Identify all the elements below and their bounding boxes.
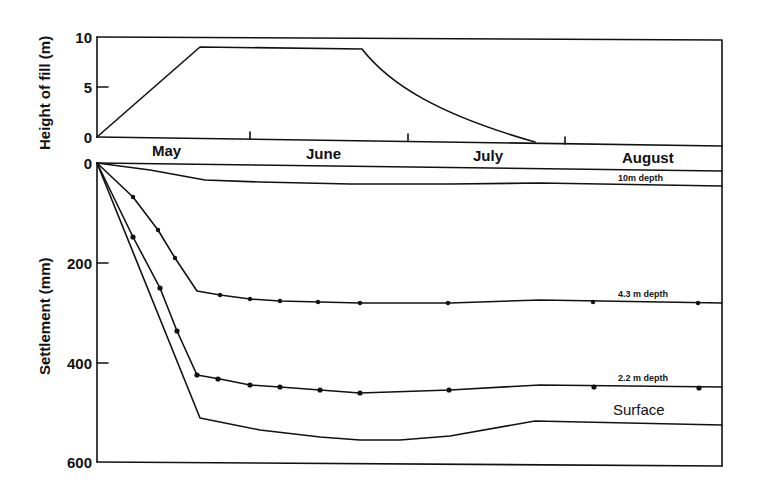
top-y-axis-title: Height of fill (m): [36, 36, 53, 150]
tick-label-600: 600: [52, 454, 92, 471]
month-label-june: June: [306, 145, 341, 162]
bottom-axis-baseline: [97, 462, 722, 466]
month-label-may: May: [152, 142, 181, 159]
fill-height-line: [97, 47, 535, 142]
tick-label-10: 10: [52, 29, 92, 46]
bottom-y-axis-title: Settlement (mm): [36, 257, 53, 375]
series-2-2m-depth: [97, 163, 722, 393]
series-label-4-3m: 4.3 m depth: [618, 289, 668, 299]
series-label-surface: Surface: [613, 401, 665, 418]
month-label-august: August: [622, 149, 674, 166]
series-label-2-2m: 2.2 m depth: [618, 373, 668, 383]
tick-label-400: 400: [52, 355, 92, 372]
top-panel-baseline: [97, 137, 722, 146]
tick-label-0-bottom: 0: [52, 155, 92, 172]
tick-label-0-top: 0: [52, 129, 92, 146]
tick-label-200: 200: [52, 255, 92, 272]
tick-label-5: 5: [52, 79, 92, 96]
month-label-july: July: [473, 147, 503, 164]
series-label-10m: 10m depth: [618, 173, 663, 183]
